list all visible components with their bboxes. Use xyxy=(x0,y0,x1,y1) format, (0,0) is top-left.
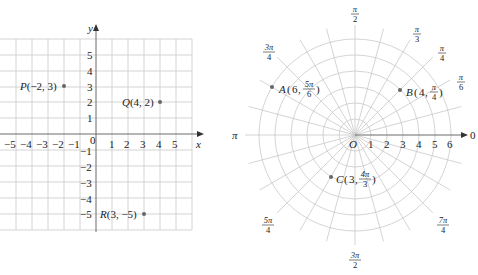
svg-text:4: 4 xyxy=(267,52,272,62)
point-marker xyxy=(398,88,402,92)
point-Q: Q(4, 2) xyxy=(122,96,162,109)
svg-text:,: , xyxy=(425,86,428,98)
point-marker xyxy=(142,212,146,216)
point-theta-den: 3 xyxy=(363,179,367,189)
svg-text:3: 3 xyxy=(415,34,419,44)
y-tick: 1 xyxy=(87,112,93,124)
svg-text:4: 4 xyxy=(266,225,271,235)
y-tick: −3 xyxy=(80,177,92,189)
svg-text:5π: 5π xyxy=(264,215,273,225)
angle-label-3pi-2: 3π 2 xyxy=(349,250,361,270)
radial-tick: 5 xyxy=(432,138,438,150)
svg-text:): ) xyxy=(316,83,320,96)
point-name: Q xyxy=(122,96,130,108)
point-coords: (4, 2) xyxy=(130,96,154,109)
y-tick: −1 xyxy=(80,145,92,157)
svg-text:(: ( xyxy=(344,173,348,186)
point-coords: (3, −5) xyxy=(107,208,137,221)
svg-text:): ) xyxy=(372,173,376,186)
polar-plane: 0 π O 1 2 3 4 5 6 π 2 π 3 π 4 π xyxy=(232,4,476,270)
polar-axis-label: 0 xyxy=(470,129,476,141)
polar-axis-arrow-icon xyxy=(461,132,468,138)
coordinate-diagrams: y x 0 −5 −4 −3 −2 −1 1 2 3 4 5 5 4 3 2 1… xyxy=(0,0,478,275)
x-tick: −4 xyxy=(20,138,32,150)
y-axis-label: y xyxy=(87,22,93,34)
pole-label: O xyxy=(349,138,357,150)
svg-text:π: π xyxy=(353,4,358,14)
angle-label-pi-3: π 3 xyxy=(413,24,421,44)
point-marker xyxy=(270,85,274,89)
point-theta-num: 5π xyxy=(305,79,314,89)
svg-text:): ) xyxy=(439,86,443,99)
angle-label-pi-4: π 4 xyxy=(438,43,446,63)
point-marker xyxy=(158,100,162,104)
radial-tick: 2 xyxy=(384,138,390,150)
x-tick: 5 xyxy=(172,138,178,150)
svg-text:2: 2 xyxy=(353,14,357,24)
svg-text:,: , xyxy=(355,173,358,185)
x-tick: 4 xyxy=(156,138,162,150)
point-theta-num: 4π xyxy=(361,169,370,179)
radial-tick: 6 xyxy=(447,138,453,150)
point-name: A xyxy=(278,83,286,95)
y-tick: −5 xyxy=(80,208,92,220)
svg-text:R(3, −5): R(3, −5) xyxy=(99,208,137,221)
svg-text:(: ( xyxy=(287,83,291,96)
x-tick: −5 xyxy=(4,138,16,150)
point-marker xyxy=(62,84,66,88)
radial-tick: 3 xyxy=(400,138,406,150)
point-theta-den: 4 xyxy=(432,92,437,102)
svg-text:7π: 7π xyxy=(439,215,448,225)
point-theta-den: 6 xyxy=(307,89,311,99)
angle-label-pi-2: π 2 xyxy=(351,4,359,24)
svg-text:4: 4 xyxy=(441,225,446,235)
svg-text:2: 2 xyxy=(353,260,357,270)
rectangular-plane: y x 0 −5 −4 −3 −2 −1 1 2 3 4 5 5 4 3 2 1… xyxy=(0,22,204,232)
y-tick: 5 xyxy=(87,49,93,61)
x-tick: 2 xyxy=(124,138,130,150)
angle-label-5pi-4: 5π 4 xyxy=(262,215,274,235)
svg-text:Q(4, 2): Q(4, 2) xyxy=(122,96,154,109)
point-R: R(3, −5) xyxy=(99,208,146,221)
point-marker xyxy=(329,175,333,179)
x-tick: 1 xyxy=(109,138,115,150)
svg-text:π: π xyxy=(415,24,420,34)
point-name: C xyxy=(336,173,344,185)
point-coords: (−2, 3) xyxy=(27,80,57,93)
point-name: B xyxy=(406,86,413,98)
x-tick: −2 xyxy=(52,138,64,150)
angle-label-7pi-4: 7π 4 xyxy=(437,215,449,235)
svg-text:3π: 3π xyxy=(264,42,274,52)
svg-text:,: , xyxy=(298,83,301,95)
svg-text:P(−2, 3): P(−2, 3) xyxy=(19,80,57,93)
point-P: P(−2, 3) xyxy=(19,80,66,93)
svg-text:6: 6 xyxy=(459,82,463,92)
y-tick: 4 xyxy=(87,65,93,77)
y-axis-arrow-icon xyxy=(93,24,99,31)
point-theta-num: π xyxy=(432,82,437,92)
y-tick: 2 xyxy=(87,96,93,108)
svg-text:π: π xyxy=(440,43,445,53)
y-tick: 3 xyxy=(87,81,93,93)
svg-text:4: 4 xyxy=(440,53,445,63)
x-axis-arrow-icon xyxy=(197,131,204,137)
radial-tick-labels: 1 2 3 4 5 6 xyxy=(368,138,453,150)
x-tick: −3 xyxy=(36,138,48,150)
x-tick: −1 xyxy=(68,138,80,150)
svg-text:(: ( xyxy=(414,86,418,99)
angle-label-pi-6: π 6 xyxy=(457,72,465,92)
y-tick: −2 xyxy=(80,161,92,173)
radial-tick: 1 xyxy=(368,138,374,150)
angle-label-3pi-4: 3π 4 xyxy=(263,42,275,62)
pi-label: π xyxy=(232,129,238,141)
svg-text:3π: 3π xyxy=(350,250,360,260)
y-tick: −4 xyxy=(80,193,92,205)
x-axis-label: x xyxy=(195,138,201,150)
x-tick: 3 xyxy=(140,138,146,150)
svg-text:π: π xyxy=(459,72,464,82)
radial-tick: 4 xyxy=(416,138,422,150)
